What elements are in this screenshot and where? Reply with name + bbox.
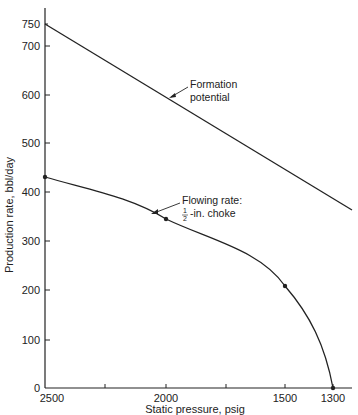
- svg-text:potential: potential: [190, 91, 230, 103]
- svg-text:2: 2: [183, 215, 187, 222]
- svg-text:500: 500: [22, 137, 40, 149]
- svg-text:750: 750: [22, 18, 40, 30]
- svg-text:1: 1: [183, 207, 187, 214]
- y-ticks: [45, 24, 50, 340]
- series-flowing-rate: [45, 177, 333, 388]
- svg-text:400: 400: [22, 186, 40, 198]
- chart-canvas: 0 100 200 300 400 500 600 700 750 2500 2…: [0, 0, 358, 415]
- svg-text:2500: 2500: [40, 392, 64, 404]
- svg-text:200: 200: [22, 284, 40, 296]
- svg-text:1300: 1300: [321, 392, 345, 404]
- svg-text:100: 100: [22, 334, 40, 346]
- svg-text:Formation: Formation: [190, 78, 237, 90]
- y-axis-title: Production rate, bbl/day: [3, 156, 15, 273]
- svg-text:300: 300: [22, 235, 40, 247]
- svg-text:-in. choke: -in. choke: [190, 207, 236, 219]
- svg-text:1500: 1500: [273, 392, 297, 404]
- x-axis-title: Static pressure, psig: [145, 403, 245, 415]
- svg-text:700: 700: [22, 40, 40, 52]
- series-formation-potential: [45, 24, 352, 210]
- y-tick-labels: 0 100 200 300 400 500 600 700 750: [22, 18, 40, 394]
- svg-text:Flowing rate:: Flowing rate:: [182, 194, 242, 206]
- svg-text:600: 600: [22, 89, 40, 101]
- flowing-rate-markers: [43, 175, 335, 390]
- annotation-formation-potential: Formation potential: [169, 78, 237, 103]
